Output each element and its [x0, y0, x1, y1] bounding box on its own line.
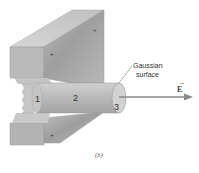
lower-plate	[10, 112, 104, 145]
figure-caption: (b)	[95, 151, 103, 159]
region-3-label: 3	[114, 102, 119, 112]
charge-mark: +	[50, 132, 54, 138]
callout-line-2: surface	[136, 71, 159, 78]
callout-line-1: Gaussian	[133, 62, 163, 69]
region-2-label: 2	[73, 93, 78, 103]
electric-field-arrow: E →	[119, 78, 193, 101]
upper-plate-front	[10, 47, 44, 78]
gaussian-cylinder: 1 2 3	[32, 83, 126, 113]
region-1-label: 1	[35, 94, 40, 104]
field-label-arrow: →	[177, 78, 185, 87]
upper-plate	[10, 10, 104, 84]
lower-plate-lip	[12, 113, 50, 123]
gaussian-surface-diagram: + + + 1 2 3 E → Gaussian surface (b)	[0, 0, 199, 173]
gaussian-surface-callout: Gaussian surface	[119, 62, 163, 83]
charge-mark: +	[50, 51, 54, 57]
lower-plate-face	[44, 112, 104, 143]
charge-mark: +	[93, 27, 97, 33]
lower-plate-front	[10, 123, 44, 145]
